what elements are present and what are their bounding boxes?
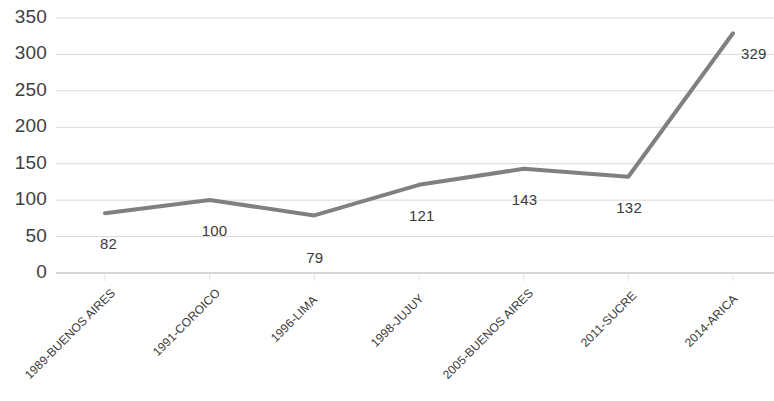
- y-axis-tick-label: 50: [25, 225, 47, 247]
- y-axis-tick-label: 100: [15, 188, 47, 210]
- data-point-label: 143: [512, 191, 538, 208]
- data-point-label: 100: [202, 222, 228, 239]
- gridlines: [56, 18, 774, 273]
- y-axis-tick-label: 350: [15, 6, 47, 28]
- data-point-label: 132: [616, 199, 642, 216]
- data-series-line: [105, 33, 733, 215]
- data-point-label: 121: [409, 207, 435, 224]
- data-point-label: 82: [100, 235, 117, 252]
- data-point-label: 79: [306, 249, 323, 266]
- data-point-label: 329: [741, 45, 767, 62]
- y-axis-tick-label: 200: [15, 115, 47, 137]
- y-axis-tick-label: 250: [15, 79, 47, 101]
- y-axis-tick-label: 0: [36, 261, 47, 283]
- chart-canvas: [0, 0, 774, 401]
- x-axis-ticks: [105, 273, 733, 281]
- y-axis-tick-label: 300: [15, 42, 47, 64]
- line-chart: 050100150200250300350 821007912114313232…: [0, 0, 774, 401]
- y-axis-tick-label: 150: [15, 152, 47, 174]
